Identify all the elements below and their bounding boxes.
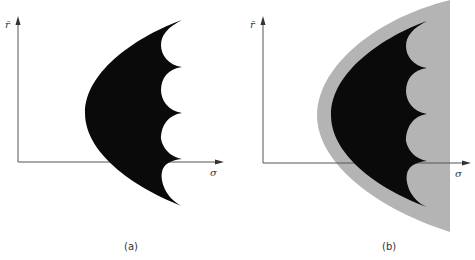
- y-axis-label-b: r̄: [250, 20, 255, 30]
- panel-b: [261, 0, 472, 232]
- x-axis-arrow-icon: [215, 160, 224, 165]
- y-axis-arrow-icon: [16, 16, 21, 25]
- panel-a: [16, 16, 225, 206]
- y-axis-label-a: r̄: [5, 20, 10, 30]
- figure-canvas: [0, 0, 475, 260]
- x-axis-arrow-icon: [462, 161, 471, 166]
- x-axis-label-b: σ: [455, 169, 462, 179]
- caption-a: (a): [124, 242, 138, 252]
- feasible-set-region: [85, 20, 182, 206]
- caption-b: (b): [382, 242, 396, 252]
- y-axis-arrow-icon: [261, 16, 266, 25]
- x-axis-label-a: σ: [210, 168, 217, 178]
